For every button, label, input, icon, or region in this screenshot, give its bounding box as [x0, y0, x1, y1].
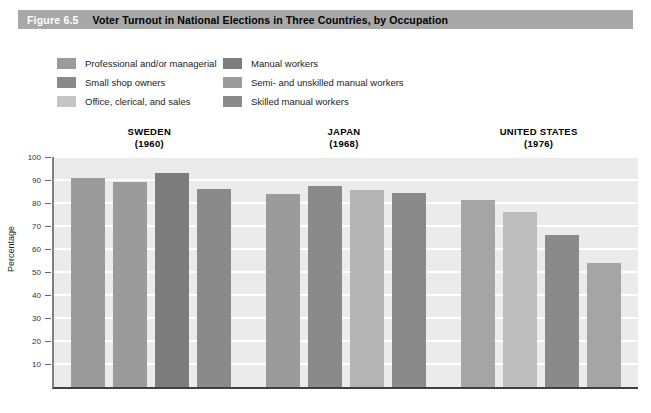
bar [308, 186, 342, 387]
legend-item-label: Skilled manual workers [251, 96, 349, 107]
group-header-sweden: SWEDEN(1960) [69, 126, 229, 149]
group-country-name: UNITED STATES [459, 126, 619, 138]
y-axis-tick-label: 40 [0, 291, 41, 300]
y-axis-tick [45, 364, 51, 365]
legend-item-label: Small shop owners [85, 77, 165, 88]
bar [197, 189, 231, 387]
group-year: (1968) [264, 138, 424, 150]
y-axis-tick [45, 180, 51, 181]
legend-swatch-icon [223, 77, 242, 88]
legend-swatch-icon [57, 58, 76, 69]
legend-item[interactable]: Office, clerical, and sales [57, 92, 217, 111]
legend-swatch-icon [57, 96, 76, 107]
legend-item-label: Semi- and unskilled manual workers [251, 77, 404, 88]
figure-header-band: Figure 6.5 Voter Turnout in National Ele… [18, 10, 633, 29]
legend-item[interactable]: Manual workers [223, 54, 404, 73]
legend-item-label: Office, clerical, and sales [85, 96, 190, 107]
y-axis-tick-label: 30 [0, 314, 41, 323]
legend-swatch-icon [223, 96, 242, 107]
legend-item[interactable]: Professional and/or managerial [57, 54, 217, 73]
legend-column: Professional and/or managerialSmall shop… [57, 54, 217, 111]
legend-swatch-icon [57, 77, 76, 88]
bar [350, 190, 384, 387]
legend-item[interactable]: Small shop owners [57, 73, 217, 92]
y-axis-tick-label: 90 [0, 176, 41, 185]
bar [155, 173, 189, 387]
y-axis-tick-label: 70 [0, 222, 41, 231]
bar [545, 235, 579, 387]
y-axis-tick [45, 249, 51, 250]
legend-item[interactable]: Semi- and unskilled manual workers [223, 73, 404, 92]
bar [503, 212, 537, 387]
y-axis-tick [45, 272, 51, 273]
group-header-japan: JAPAN(1968) [264, 126, 424, 149]
y-axis-tick [45, 295, 51, 296]
group-year: (1976) [459, 138, 619, 150]
chart-plot-area [52, 157, 638, 389]
group-header-united-states: UNITED STATES(1976) [459, 126, 619, 149]
bar [392, 193, 426, 387]
y-axis-tick-label: 20 [0, 337, 41, 346]
bar [587, 263, 621, 387]
bar [461, 200, 495, 387]
legend-column: Manual workersSemi- and unskilled manual… [223, 54, 404, 111]
y-axis-tick-label: 100 [0, 153, 41, 162]
y-axis-tick [45, 157, 51, 158]
bar [113, 182, 147, 387]
y-axis-tick [45, 341, 51, 342]
chart-legend: Professional and/or managerialSmall shop… [57, 54, 527, 112]
figure-number: Figure 6.5 [27, 14, 79, 26]
legend-item[interactable]: Skilled manual workers [223, 92, 404, 111]
y-axis-tick-label: 80 [0, 199, 41, 208]
y-axis-tick-label: 60 [0, 245, 41, 254]
legend-swatch-icon [223, 58, 242, 69]
y-axis-tick [45, 203, 51, 204]
bar [71, 178, 105, 387]
group-year: (1960) [69, 138, 229, 150]
group-country-name: SWEDEN [69, 126, 229, 138]
group-country-name: JAPAN [264, 126, 424, 138]
legend-item-label: Professional and/or managerial [85, 58, 217, 69]
y-axis-tick [45, 318, 51, 319]
y-axis-tick [45, 226, 51, 227]
y-axis-tick-label: 10 [0, 360, 41, 369]
legend-item-label: Manual workers [251, 58, 318, 69]
y-axis-tick-label: 50 [0, 268, 41, 277]
bars-layer [54, 157, 638, 387]
figure-title: Voter Turnout in National Elections in T… [93, 14, 448, 26]
bar [266, 194, 300, 387]
